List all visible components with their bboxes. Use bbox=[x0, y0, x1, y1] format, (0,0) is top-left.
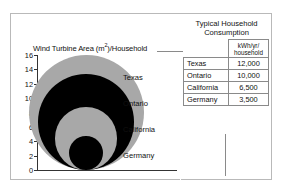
bubble-label-california: California bbox=[123, 125, 155, 134]
unit-line2: household bbox=[234, 49, 263, 56]
table-row: Germany3,500 bbox=[184, 94, 269, 106]
unit-line1: kWh/yr/ bbox=[238, 42, 259, 49]
panel-title-line1: Typical Household bbox=[181, 19, 272, 28]
panel-title-line2: Consumption bbox=[181, 28, 272, 37]
cell-value: 3,500 bbox=[228, 94, 268, 106]
y-tick-label-4: 4 bbox=[13, 137, 33, 146]
table-header-blank bbox=[184, 40, 229, 58]
y-tick-mark-0 bbox=[34, 170, 38, 171]
cell-region: Germany bbox=[184, 94, 229, 106]
y-axis-tick-labels: 0246810121416 bbox=[11, 14, 33, 181]
cell-region: California bbox=[184, 82, 229, 94]
panel-connector-vertical bbox=[225, 134, 226, 176]
bubble-group bbox=[38, 55, 177, 170]
y-tick-label-2: 2 bbox=[13, 151, 33, 160]
consumption-table: kWh/yr/ household Texas12,000Ontario10,0… bbox=[183, 39, 269, 106]
bubble-label-germany: Germany bbox=[123, 151, 154, 160]
y-tick-label-0: 0 bbox=[13, 166, 33, 175]
y-tick-label-12: 12 bbox=[13, 79, 33, 88]
cell-region: Ontario bbox=[184, 70, 229, 82]
axis-title-main: Wind Turbine Area (m bbox=[33, 44, 104, 53]
y-tick-label-16: 16 bbox=[13, 51, 33, 60]
consumption-panel: Typical Household Consumption kWh/yr/ ho… bbox=[181, 14, 272, 181]
bubble-label-texas: Texas bbox=[123, 73, 143, 82]
axis-title-tail: )/Household bbox=[107, 44, 147, 53]
table-row: Texas12,000 bbox=[184, 58, 269, 70]
cell-value: 6,500 bbox=[228, 82, 268, 94]
bubble-chart: Wind Turbine Area (m2)/Household 0246810… bbox=[11, 14, 181, 181]
cell-region: Texas bbox=[184, 58, 229, 70]
table-body: Texas12,000Ontario10,000California6,500G… bbox=[184, 58, 269, 106]
table-header-unit: kWh/yr/ household bbox=[228, 40, 268, 58]
bubble-label-ontario: Ontario bbox=[123, 99, 148, 108]
cell-value: 10,000 bbox=[228, 70, 268, 82]
cell-value: 12,000 bbox=[228, 58, 268, 70]
panel-connector-horizontal bbox=[157, 51, 183, 52]
table-header-row: kWh/yr/ household bbox=[184, 40, 269, 58]
table-row: California6,500 bbox=[184, 82, 269, 94]
figure-frame: Wind Turbine Area (m2)/Household 0246810… bbox=[10, 13, 272, 180]
chart-axis-title: Wind Turbine Area (m2)/Household bbox=[33, 42, 147, 53]
x-axis-line bbox=[37, 170, 177, 171]
panel-title: Typical Household Consumption bbox=[181, 19, 272, 37]
table-row: Ontario10,000 bbox=[184, 70, 269, 82]
y-tick-label-14: 14 bbox=[13, 65, 33, 74]
bubble-germany bbox=[69, 136, 103, 170]
